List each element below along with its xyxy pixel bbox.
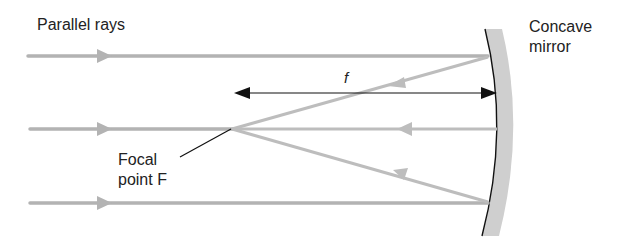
incident-arrow-icons xyxy=(97,49,112,210)
arrow-left-icon xyxy=(397,122,412,136)
arrow-left-icon xyxy=(234,87,250,99)
arrow-right-icon xyxy=(97,122,112,136)
focal-length-label: f xyxy=(344,68,348,88)
arrow-left-icon xyxy=(388,77,406,88)
arrow-right-icon xyxy=(97,49,112,63)
parallel-rays-label: Parallel rays xyxy=(37,15,125,35)
reflected-ray-bottom xyxy=(232,129,488,202)
focal-point-label: Focal point F xyxy=(118,150,208,190)
arrow-right-icon xyxy=(97,196,112,210)
concave-mirror-label: Concave mirror xyxy=(529,17,629,57)
mirror-body xyxy=(482,29,513,236)
reflected-rays xyxy=(232,57,497,202)
